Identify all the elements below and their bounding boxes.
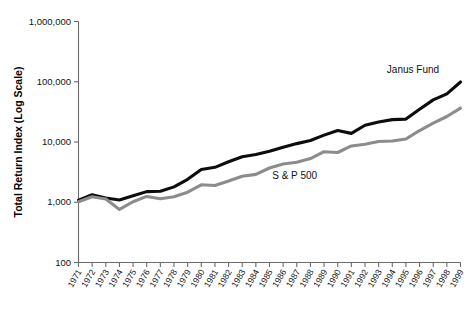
y-axis: 1,000,000100,00010,0001,000100 [29, 16, 79, 268]
y-tick-label: 100,000 [37, 76, 71, 87]
y-tick-label: 100 [55, 257, 71, 268]
y-tick-label: 1,000 [47, 196, 71, 207]
x-axis: 1971197219731974197519761977197819791980… [66, 263, 466, 290]
x-tick-label: 1999 [448, 267, 466, 289]
series-line [79, 82, 461, 200]
series-label: S & P 500 [272, 170, 317, 181]
y-tick-label: 1,000,000 [29, 16, 71, 27]
series-janus-fund: Janus Fund [79, 64, 461, 200]
chart-container: 1,000,000100,00010,0001,0001001971197219… [0, 0, 471, 312]
line-chart: 1,000,000100,00010,0001,0001001971197219… [0, 0, 471, 312]
y-tick-label: 10,000 [42, 136, 71, 147]
series-label: Janus Fund [387, 64, 439, 75]
y-axis-title: Total Return Index (Log Scale) [12, 67, 24, 218]
